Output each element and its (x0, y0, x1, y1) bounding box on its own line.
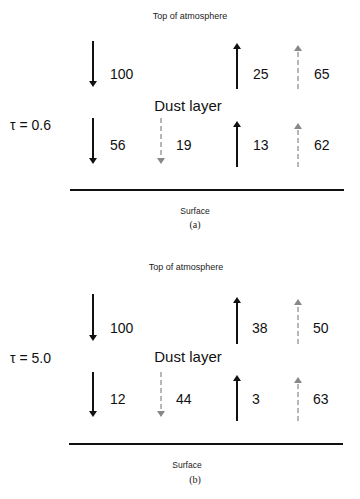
dust-layer-label: Dust layer (154, 348, 222, 365)
flux-value-up-dashed: 65 (314, 66, 330, 82)
flux-value-up-solid: 38 (252, 320, 268, 336)
arrow-layer (0, 0, 360, 499)
surface-label: Surface (180, 206, 209, 216)
dust-layer-label: Dust layer (154, 97, 222, 114)
flux-value-up-dashed: 50 (313, 320, 329, 336)
flux-value-up-dashed: 62 (314, 137, 330, 153)
flux-value-down-solid: 56 (110, 137, 126, 153)
flux-value-down-solid: 12 (110, 391, 126, 407)
flux-value-down-solid: 100 (110, 320, 133, 336)
panel-caption: (a) (189, 219, 200, 230)
flux-value-down-solid: 100 (110, 66, 133, 82)
flux-value-up-dashed: 63 (313, 391, 329, 407)
flux-value-up-solid: 3 (252, 391, 260, 407)
top-of-atmosphere-label: Top of atmosphere (149, 262, 224, 272)
flux-value-up-solid: 25 (253, 66, 269, 82)
flux-value-down-dashed: 19 (176, 137, 192, 153)
flux-value-down-dashed: 44 (176, 391, 192, 407)
optical-depth-label: τ = 5.0 (10, 350, 51, 366)
surface-label: Surface (172, 460, 201, 470)
panel-caption: (b) (189, 474, 201, 485)
optical-depth-label: τ = 0.6 (10, 117, 51, 133)
flux-value-up-solid: 13 (253, 137, 269, 153)
top-of-atmosphere-label: Top of atmosphere (153, 11, 228, 21)
